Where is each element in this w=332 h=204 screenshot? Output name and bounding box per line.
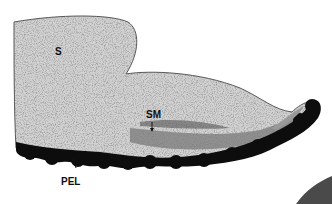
label-pel: PEL: [61, 177, 80, 187]
label-smooth-muscle: SM: [146, 110, 161, 120]
micrograph-figure: S SM PEL: [0, 0, 332, 204]
tissue-section-image: [0, 0, 332, 204]
label-stroma: S: [55, 47, 62, 57]
